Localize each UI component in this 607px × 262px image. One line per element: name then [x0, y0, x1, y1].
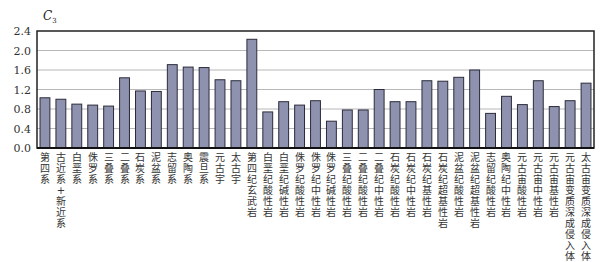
x-tick-label: 二	[120, 152, 130, 163]
x-tick-label: 变	[565, 184, 575, 196]
x-tick-label: 岩	[454, 206, 464, 218]
x-tick-label: 超	[470, 184, 480, 196]
x-tick-label: 叠	[342, 163, 352, 174]
x-tick-label: 侏	[88, 152, 98, 163]
x-tick-label: 岩	[279, 206, 289, 218]
x-tick-label: 纪	[326, 174, 336, 185]
x-tick-label: 四	[247, 163, 257, 174]
x-tick-label: 岩	[406, 206, 416, 218]
bar	[88, 105, 98, 148]
x-tick-label: 中	[406, 184, 416, 196]
bar	[342, 110, 352, 148]
x-tick-label: 系	[183, 174, 193, 185]
x-tick-label: 古	[215, 162, 225, 174]
x-tick-label: 纪	[358, 174, 368, 185]
x-tick-label: 岩	[374, 206, 384, 218]
x-tick-label: 近	[56, 162, 66, 174]
x-tick-label: 酸	[358, 184, 368, 196]
x-tick-label: 岩	[470, 217, 480, 229]
x-tick-label: 性	[406, 195, 416, 207]
bar	[581, 83, 591, 148]
x-tick-label: 酸	[295, 184, 305, 196]
x-tick-label: 泥	[151, 151, 161, 163]
x-tick-label: 叠	[358, 163, 368, 174]
x-tick-label: 酸	[486, 184, 496, 196]
x-tick-label: 纪	[486, 174, 496, 185]
bar	[533, 81, 543, 148]
bar	[390, 102, 400, 148]
x-tick-label: 酸	[454, 184, 464, 196]
bar	[374, 90, 384, 149]
x-tick-label: 系	[56, 218, 66, 229]
x-tick-label: 岩	[533, 206, 543, 218]
x-tick-label: 古	[517, 162, 527, 174]
bar	[199, 68, 209, 148]
bar	[151, 91, 161, 148]
x-tick-label: 成	[565, 218, 575, 229]
bar	[56, 99, 66, 148]
bar	[438, 81, 448, 148]
x-tick-label: 质	[581, 196, 591, 207]
y-tick-label: 2.4	[14, 25, 32, 38]
bar	[136, 91, 146, 148]
x-tick-label: 宇	[215, 173, 225, 185]
bar-chart: 0.00.40.81.21.62.02.4第四系古近系+新近系白垩系侏罗系三叠系…	[0, 0, 607, 262]
x-tick-label: 第	[40, 151, 50, 163]
y-tick-label: 0.8	[14, 103, 32, 116]
x-tick-label: 性	[295, 195, 305, 207]
x-tick-label: 武	[247, 195, 257, 207]
x-tick-label: 纪	[501, 174, 511, 185]
x-tick-label: 石	[438, 152, 448, 163]
bar	[502, 96, 512, 148]
x-tick-label: 岩	[326, 206, 336, 218]
x-tick-label: 入	[581, 240, 591, 251]
x-tick-label: 新	[56, 195, 66, 207]
x-tick-label: 纪	[374, 174, 384, 185]
y-tick-label: 0.0	[14, 142, 32, 155]
bar	[215, 80, 225, 148]
x-tick-label: 成	[581, 218, 591, 229]
x-tick-label: 罗	[326, 163, 336, 174]
x-tick-label: 侏	[326, 152, 336, 163]
x-tick-label: 性	[438, 206, 448, 218]
x-tick-label: 系	[72, 174, 82, 185]
x-tick-label: 性	[326, 195, 336, 207]
x-tick-label: 深	[565, 207, 575, 218]
x-tick-label: 纪	[263, 174, 273, 185]
x-tick-label: 震	[199, 152, 209, 163]
x-tick-label: 旦	[199, 163, 209, 174]
x-tick-label: 系	[104, 174, 114, 185]
x-tick-label: 性	[374, 195, 384, 207]
bar	[406, 102, 416, 148]
x-tick-label: 叠	[374, 163, 384, 174]
x-tick-label: 系	[56, 174, 66, 185]
x-tick-label: 碱	[326, 185, 336, 196]
bar	[517, 105, 527, 148]
x-tick-label: 中	[501, 184, 511, 196]
x-tick-label: 系	[151, 174, 161, 185]
x-tick-label: 性	[454, 195, 464, 207]
x-tick-label: 宇	[231, 173, 241, 185]
x-tick-label: 体	[565, 251, 575, 262]
x-tick-label: 深	[581, 207, 591, 218]
x-tick-label: 岩	[295, 206, 305, 218]
x-tick-label: 基	[549, 184, 559, 196]
x-tick-label: 岩	[390, 206, 400, 218]
bar	[40, 98, 50, 148]
x-tick-label: 二	[358, 152, 368, 163]
x-tick-label: 性	[470, 206, 480, 218]
x-tick-label: 宙	[549, 173, 559, 185]
x-tick-label: 盆	[470, 162, 480, 174]
x-tick-label: 罗	[88, 163, 98, 174]
x-tick-label: 宙	[565, 173, 575, 185]
x-tick-label: 质	[565, 196, 575, 207]
x-tick-label: 陶	[501, 162, 511, 174]
bar	[486, 113, 496, 148]
x-tick-label: 岩	[549, 206, 559, 218]
x-tick-label: 系	[199, 174, 209, 185]
x-tick-label: 炭	[406, 163, 416, 174]
x-tick-label: 基	[470, 195, 480, 207]
x-tick-label: 宙	[533, 173, 543, 185]
x-tick-label: 近	[56, 206, 66, 218]
x-tick-label: 元	[565, 152, 575, 163]
